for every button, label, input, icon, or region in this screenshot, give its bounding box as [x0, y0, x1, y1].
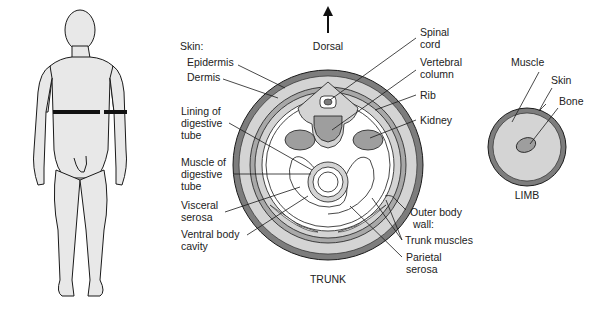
- label-kidney: Kidney: [420, 114, 453, 126]
- label-trunk-muscles: Trunk muscles: [405, 234, 473, 246]
- left-leg: [80, 170, 107, 296]
- dorsal-label: Dorsal: [313, 40, 343, 52]
- label-muscle-digestive-1: Muscle of: [181, 156, 226, 168]
- label-muscle-digestive-3: tube: [181, 180, 202, 192]
- label-lining-1: Lining of: [181, 105, 221, 117]
- limb-title: LIMB: [515, 189, 540, 201]
- right-arm: [34, 66, 53, 185]
- kidney-right: [353, 130, 383, 150]
- neck: [72, 46, 90, 58]
- label-spinal-cord-2: cord: [420, 38, 441, 50]
- trunk-cross-section: [233, 70, 423, 260]
- skin-heading: Skin:: [180, 40, 203, 52]
- label-outer-wall-2: wall:: [412, 218, 434, 230]
- label-ventral-cavity-2: cavity: [181, 240, 209, 252]
- label-lining-2: digestive: [181, 117, 223, 129]
- trunk-title: TRUNK: [310, 273, 346, 285]
- limb-label-skin: Skin: [551, 74, 572, 86]
- label-dermis: Dermis: [187, 71, 220, 83]
- label-muscle-digestive-2: digestive: [181, 168, 223, 180]
- label-parietal-2: serosa: [406, 263, 438, 275]
- head: [65, 10, 95, 50]
- label-visceral-serosa-2: serosa: [181, 211, 213, 223]
- label-parietal-1: Parietal: [406, 251, 442, 263]
- label-visceral-serosa-1: Visceral: [181, 199, 218, 211]
- label-lining-3: tube: [181, 129, 202, 141]
- human-figure: [34, 10, 127, 296]
- left-arm: [110, 66, 127, 185]
- digestive-lumen: [318, 172, 338, 192]
- limb-cross-section: [488, 108, 566, 186]
- label-outer-wall-1: Outer body: [410, 206, 463, 218]
- label-rib: Rib: [420, 89, 436, 101]
- label-vertebral-1: Vertebral: [420, 56, 462, 68]
- limb-label-bone: Bone: [559, 95, 584, 107]
- body-plan-diagram: Dorsal Skin: Epidermis Dermis Lining of …: [0, 0, 614, 314]
- limb-label-muscle: Muscle: [511, 56, 544, 68]
- right-leg: [54, 170, 80, 296]
- label-spinal-cord-1: Spinal: [420, 26, 449, 38]
- label-vertebral-2: column: [420, 68, 454, 80]
- torso: [44, 57, 118, 178]
- label-epidermis: Epidermis: [187, 56, 234, 68]
- kidney-left: [285, 130, 315, 150]
- label-ventral-cavity-1: Ventral body: [181, 228, 240, 240]
- arrowhead-icon: [323, 6, 333, 16]
